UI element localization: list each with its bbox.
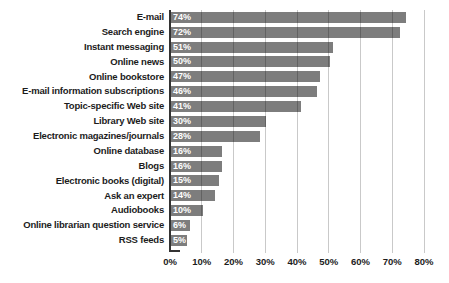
category-label: Audiobooks [0,203,164,218]
chart-row: 72% [171,25,441,40]
category-label: Electronic magazines/journals [0,129,164,144]
bar-value-label: 47% [173,71,191,82]
bar-value-label: 28% [173,131,191,142]
category-label: Library Web site [0,114,164,129]
category-label: Online news [0,55,164,70]
category-label: RSS feeds [0,233,164,248]
x-tick-label: 80% [404,256,444,267]
chart-row: 28% [171,129,441,144]
chart-row: 41% [171,99,441,114]
chart-row: 14% [171,189,441,204]
chart-row: 46% [171,84,441,99]
y-axis-line [169,10,171,252]
bar-value-label: 74% [173,12,191,23]
y-axis-foot [169,250,180,252]
bar-value-label: 30% [173,116,191,127]
bar-value-label: 15% [173,175,191,186]
bar-value-label: 41% [173,101,191,112]
category-label: E-mail information subscriptions [0,84,164,99]
bar-value-label: 10% [173,205,191,216]
bar-value-label: 16% [173,146,191,157]
bar-value-label: 14% [173,190,191,201]
bar [171,86,317,97]
chart-row: 15% [171,174,441,189]
chart-row: 5% [171,233,441,248]
category-label: E-mail [0,10,164,25]
chart-row: 16% [171,159,441,174]
bar [171,71,320,82]
x-axis-tick-labels: 0%10%20%30%40%50%60%70%80% [0,256,449,270]
chart-row: 51% [171,40,441,55]
category-label: Topic-specific Web site [0,99,164,114]
category-label: Online bookstore [0,70,164,85]
bar-value-label: 5% [173,235,186,246]
category-labels: E-mailSearch engineInstant messagingOnli… [0,10,164,248]
bar [171,12,406,23]
category-label: Electronic books (digital) [0,174,164,189]
bar-value-label: 46% [173,86,191,97]
chart-row: 47% [171,70,441,85]
category-label: Online database [0,144,164,159]
bar-value-label: 6% [173,220,186,231]
bar [171,27,400,38]
chart-row: 16% [171,144,441,159]
chart-row: 6% [171,218,441,233]
bar-value-label: 72% [173,27,191,38]
chart-row: 30% [171,114,441,129]
category-label: Blogs [0,159,164,174]
category-label: Instant messaging [0,40,164,55]
category-label: Ask an expert [0,189,164,204]
bar-value-label: 50% [173,56,191,67]
bar-value-label: 51% [173,42,191,53]
chart-rows: 74%72%51%50%47%46%41%30%28%16%16%15%14%1… [171,10,441,248]
chart-row: 50% [171,55,441,70]
bar-chart: E-mailSearch engineInstant messagingOnli… [0,0,449,283]
category-label: Online librarian question service [0,218,164,233]
bar-value-label: 16% [173,161,191,172]
chart-row: 74% [171,10,441,25]
bar [171,56,330,67]
category-label: Search engine [0,25,164,40]
bar [171,42,333,53]
chart-row: 10% [171,203,441,218]
